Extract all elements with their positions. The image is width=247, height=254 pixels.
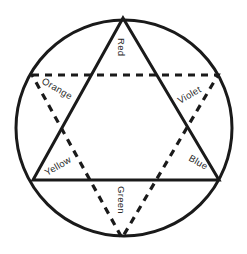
color-hexagram-diagram: Red Orange Violet Yellow Blue Green — [0, 0, 247, 254]
label-blue: Blue — [187, 152, 210, 172]
label-green: Green — [116, 186, 127, 214]
label-red: Red — [116, 38, 127, 56]
label-violet: Violet — [176, 83, 204, 105]
